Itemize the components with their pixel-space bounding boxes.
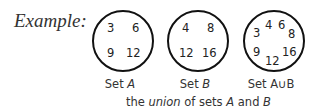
set-a-circle: 3 6 9 12 xyxy=(92,10,154,72)
element: 9 xyxy=(253,45,260,59)
caption: the union of sets A and B xyxy=(0,95,321,108)
element: 9 xyxy=(107,46,114,60)
element: 3 xyxy=(253,26,260,40)
element: 3 xyxy=(107,21,114,35)
element: 12 xyxy=(179,46,194,60)
set-union-label: Set A∪B xyxy=(231,77,311,91)
set-union-circle: 3 4 6 8 9 12 16 xyxy=(243,10,305,72)
element: 8 xyxy=(207,21,214,35)
element: 12 xyxy=(265,54,280,68)
set-b-label: Set B xyxy=(155,77,235,91)
element: 4 xyxy=(182,21,189,35)
set-a-label: Set A xyxy=(80,77,160,91)
element: 16 xyxy=(282,45,297,59)
element: 8 xyxy=(288,27,295,41)
element: 16 xyxy=(202,46,217,60)
element: 6 xyxy=(132,21,139,35)
set-b-circle: 4 8 12 16 xyxy=(167,10,229,72)
element: 4 xyxy=(265,18,272,32)
example-heading: Example: xyxy=(14,10,87,32)
element: 6 xyxy=(278,18,285,32)
element: 12 xyxy=(126,46,141,60)
